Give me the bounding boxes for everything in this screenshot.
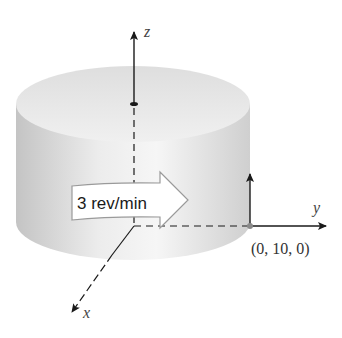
cylinder-diagram: 3 rev/min z y x (0, 10, 0) (0, 0, 342, 338)
cylinder (16, 66, 250, 260)
x-label: x (82, 304, 90, 321)
point-label: (0, 10, 0) (251, 240, 310, 258)
top-center-dot (130, 102, 138, 106)
rim-point (247, 223, 253, 229)
z-label: z (143, 23, 151, 40)
rotation-label: 3 rev/min (77, 194, 147, 213)
y-label: y (311, 199, 321, 217)
